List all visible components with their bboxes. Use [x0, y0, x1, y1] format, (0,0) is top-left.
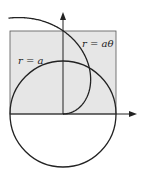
x-axis-arrow-icon [129, 111, 137, 117]
label-circle: r = a [18, 55, 44, 66]
label-spiral: r = aθ [82, 38, 114, 49]
polar-diagram: r = aθ r = a [0, 0, 144, 180]
y-axis-arrow-icon [60, 12, 66, 20]
